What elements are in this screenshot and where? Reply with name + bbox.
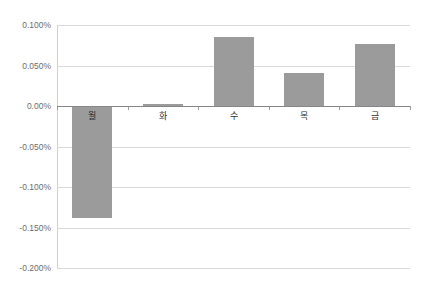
bar-0[interactable] [72, 106, 112, 218]
category-label-tue: 화 [159, 109, 167, 122]
gridline-5 [57, 228, 410, 229]
y-tick-label-3: -0.050% [19, 142, 51, 152]
x-tick-5 [410, 106, 411, 110]
y-tick-label-0: 0.100% [22, 20, 51, 30]
y-tick-label-2: 0.00% [27, 101, 51, 111]
y-tick-label-6: -0.200% [19, 263, 51, 273]
bar-2[interactable] [214, 37, 254, 106]
gridline-0 [57, 25, 410, 26]
y-axis-labels: 0.100% 0.050% 0.00% -0.050% -0.100% -0.1… [0, 25, 51, 268]
y-tick-label-4: -0.100% [19, 182, 51, 192]
y-tick-label-5: -0.150% [19, 223, 51, 233]
category-label-fri: 금 [371, 109, 379, 122]
bar-4[interactable] [355, 44, 395, 106]
category-label-mon: 월 [88, 109, 96, 122]
y-tick-label-1: 0.050% [22, 61, 51, 71]
zero-axis-line [57, 106, 410, 107]
bar-chart: 0.100% 0.050% 0.00% -0.050% -0.100% -0.1… [0, 0, 424, 287]
category-label-wed: 수 [230, 109, 238, 122]
bar-3[interactable] [284, 73, 324, 106]
gridline-6 [57, 268, 410, 269]
category-label-thu: 목 [300, 109, 308, 122]
plot-area: 월 화 수 목 금 [57, 25, 410, 268]
